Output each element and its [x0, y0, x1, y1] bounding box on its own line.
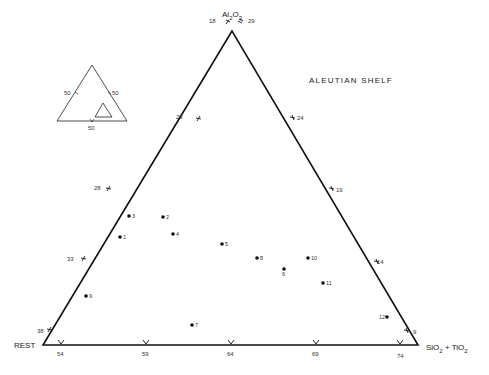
vertex-label-sio2-tio2: SiO2 + TiO2 — [426, 343, 468, 354]
inset-label-left: 50 — [64, 90, 71, 96]
point-label-3: 3 — [132, 213, 135, 219]
point-label-12: 12 — [379, 314, 385, 320]
bottom-tick-54: 54 — [57, 351, 64, 357]
bottom-tick-64: 64 — [227, 351, 234, 357]
right-tick-14: 14 — [377, 259, 384, 265]
left-tick-33: 33 — [67, 256, 74, 262]
right-tick-19: 19 — [336, 187, 343, 193]
data-point-11 — [321, 281, 325, 285]
bottom-tick-69: 69 — [312, 351, 319, 357]
point-label-10: 10 — [311, 255, 317, 261]
left-tick-23: 23 — [176, 114, 183, 120]
bottom-tick-74: 74 — [397, 353, 404, 359]
data-point-9 — [84, 294, 88, 298]
point-label-7: 7 — [195, 322, 198, 328]
point-label-9: 9 — [89, 293, 92, 299]
point-label-11: 11 — [326, 280, 332, 286]
left-tick-38: 38 — [37, 328, 44, 334]
point-label-5: 5 — [225, 241, 228, 247]
data-point-12 — [385, 315, 389, 319]
chart-title: ALEUTIAN SHELF — [309, 76, 393, 85]
point-label-6: 6 — [282, 271, 285, 277]
data-point-4 — [171, 232, 175, 236]
left-tick-18: 18 — [209, 18, 216, 24]
data-point-2 — [161, 215, 165, 219]
left-edge-ticks — [47, 20, 230, 332]
point-label-4: 4 — [176, 231, 179, 237]
ternary-chart: Al2O3 REST SiO2 + TiO2 ALEUTIAN SHELF 18… — [0, 0, 489, 375]
data-point-10 — [306, 256, 310, 260]
data-point-5 — [220, 242, 224, 246]
right-tick-9: 9 — [413, 329, 417, 335]
bottom-tick-59: 59 — [142, 351, 149, 357]
right-tick-29: 29 — [248, 18, 255, 24]
inset-label-right: 50 — [112, 90, 119, 96]
data-point-3 — [127, 214, 131, 218]
point-label-2: 2 — [166, 214, 169, 220]
point-label-1: 1 — [123, 234, 126, 240]
data-point-7 — [190, 323, 194, 327]
right-tick-24: 24 — [297, 115, 304, 121]
inset-label-bottom: 50 — [88, 125, 95, 131]
bottom-edge-ticks — [58, 340, 403, 344]
data-points — [84, 214, 389, 327]
data-point-1 — [118, 235, 122, 239]
data-point-8 — [255, 256, 259, 260]
point-label-8: 8 — [260, 255, 263, 261]
vertex-label-rest: REST — [14, 341, 35, 350]
left-tick-28: 28 — [94, 185, 101, 191]
